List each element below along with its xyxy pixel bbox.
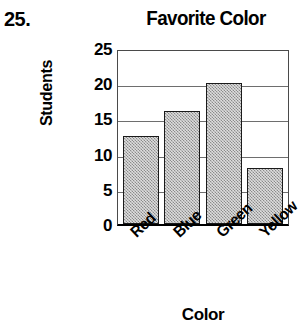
- bar-green: [206, 83, 242, 224]
- chart-bars: [118, 51, 288, 224]
- y-axis-tick-label: 15: [76, 111, 112, 128]
- y-axis-tick-label: 10: [76, 147, 112, 164]
- chart-plot-area: [117, 50, 289, 226]
- x-axis-tick-labels: RedBlueGreenYellow: [117, 228, 289, 300]
- chart-title: Favorite Color: [118, 7, 295, 30]
- bar-blue: [164, 111, 200, 224]
- y-axis-tick-label: 20: [76, 76, 112, 93]
- bar-red: [123, 136, 159, 224]
- y-axis-tick-labels: 2520151050: [76, 50, 112, 226]
- problem-number: 25.: [4, 8, 30, 30]
- y-axis-tick-label: 25: [76, 41, 112, 58]
- y-axis-tick-label: 5: [76, 182, 112, 199]
- y-axis-tick-label: 0: [76, 217, 112, 234]
- x-axis-title: Color: [117, 305, 289, 325]
- y-axis-title: Students: [37, 46, 57, 141]
